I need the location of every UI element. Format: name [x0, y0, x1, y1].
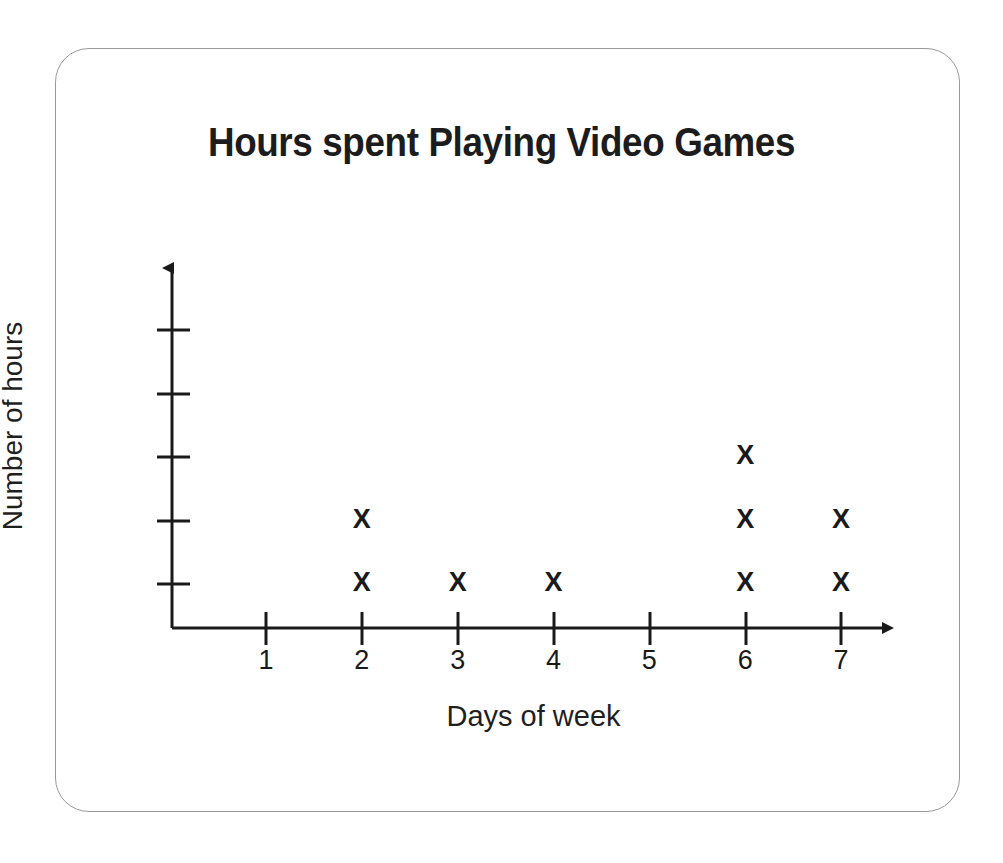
x-tick-label-1: 1 [246, 645, 286, 676]
x-axis-label: Days of week [172, 700, 895, 733]
plot-area [0, 0, 1003, 863]
data-point-x7-y2: X [824, 502, 858, 536]
data-point-x6-y2: X [728, 502, 762, 536]
x-tick-label-6: 6 [725, 645, 765, 676]
data-point-x2-y2: X [345, 502, 379, 536]
y-axis-label: Number of hours [0, 286, 29, 566]
data-point-x3-y1: X [441, 565, 475, 599]
data-point-x7-y1: X [824, 565, 858, 599]
x-tick-label-3: 3 [438, 645, 478, 676]
data-point-x6-y3: X [728, 438, 762, 472]
data-point-x6-y1: X [728, 565, 762, 599]
x-tick-label-5: 5 [629, 645, 669, 676]
x-tick-label-7: 7 [821, 645, 861, 676]
x-tick-label-2: 2 [342, 645, 382, 676]
x-tick-label-4: 4 [533, 645, 573, 676]
data-point-x4-y1: X [536, 565, 570, 599]
data-point-x2-y1: X [345, 565, 379, 599]
